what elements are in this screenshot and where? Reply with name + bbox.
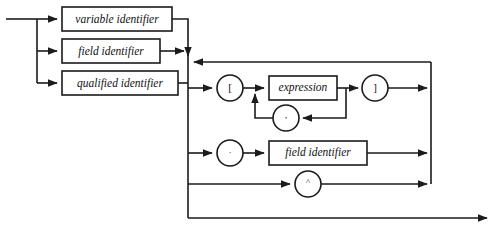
railroad-diagram-canvas: variable identifier field identifier qua…	[0, 0, 502, 237]
node-qualified-identifier-label: qualified identifier	[77, 77, 163, 90]
syntax-diagram: variable identifier field identifier qua…	[0, 0, 502, 237]
terminal-open-bracket-label: [	[228, 81, 232, 93]
terminal-comma-label: ,	[285, 110, 287, 120]
node-field-identifier-right-label: field identifier	[285, 146, 351, 159]
node-expression-label: expression	[279, 81, 328, 94]
branch-field-identifier-left: field identifier	[37, 39, 184, 63]
alt-bracket-subscript: [ expression ]	[188, 75, 427, 101]
terminal-close-bracket-label: ]	[373, 81, 377, 93]
node-field-identifier-left-label: field identifier	[78, 45, 144, 58]
alt-field-selector: . field identifier	[188, 140, 427, 166]
terminal-period-label: .	[229, 145, 231, 155]
node-variable-identifier-label: variable identifier	[75, 13, 159, 26]
entry-rail	[6, 19, 37, 83]
alt-pointer-deref: ^	[188, 171, 427, 197]
branch-qualified-identifier: qualified identifier	[37, 71, 188, 95]
